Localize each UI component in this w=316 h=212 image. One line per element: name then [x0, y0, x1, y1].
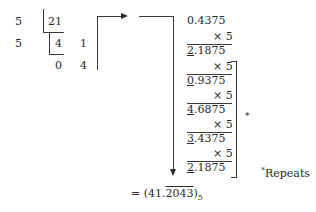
product-1: 2.1875 — [187, 45, 226, 57]
quotient-1: 4 — [55, 38, 62, 50]
result-repeating-digits: 2043 — [166, 187, 194, 200]
arrow-down-icon — [170, 169, 176, 176]
footnote: *Repeats — [261, 165, 310, 180]
divisor-2: 5 — [15, 38, 22, 50]
division-bar-horizontal-1 — [43, 32, 64, 33]
division-bar-horizontal-2 — [49, 54, 64, 55]
arrow-horizontal-segment — [97, 16, 122, 17]
multiplier-2: × 5 — [213, 61, 233, 73]
division-bar-vertical-2 — [49, 32, 50, 54]
result-base: 5 — [198, 193, 203, 202]
multiplier-3: × 5 — [213, 90, 233, 102]
multiplier-1: × 5 — [213, 31, 233, 43]
bracket-asterisk: * — [245, 110, 250, 122]
quotient-2: 0 — [55, 60, 62, 72]
arrow-vertical-segment — [97, 16, 98, 70]
down-arrow-vertical-segment — [173, 16, 174, 170]
bracket-vertical — [236, 61, 237, 178]
fraction-start: 0.4375 — [187, 15, 226, 27]
multiplier-5: × 5 — [213, 148, 233, 160]
dividend: 21 — [48, 16, 62, 28]
down-arrow-top-segment — [139, 16, 173, 17]
product-5: 2.1875 — [187, 162, 226, 174]
footnote-text: Repeats — [265, 167, 310, 180]
division-bar-vertical-1 — [43, 9, 44, 32]
divisor-1: 5 — [15, 16, 22, 28]
remainder-1: 1 — [80, 38, 87, 50]
result-expression: = (41.2043)5 — [131, 188, 203, 204]
arrow-right-icon — [121, 13, 128, 19]
product-2: 0.9375 — [187, 75, 226, 87]
multiplier-4: × 5 — [213, 119, 233, 131]
bracket-bottom — [231, 177, 237, 178]
product-3: 4.6875 — [187, 104, 226, 116]
remainder-2: 4 — [80, 60, 87, 72]
result-prefix: = (41. — [131, 187, 166, 200]
product-4: 3.4375 — [187, 133, 226, 145]
